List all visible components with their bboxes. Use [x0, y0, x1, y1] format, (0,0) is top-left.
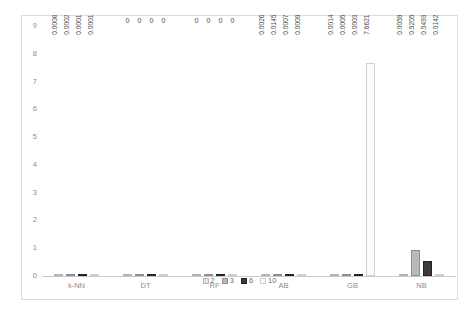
legend-item[interactable]: 3 [222, 276, 234, 285]
bar-group: 0000RF [180, 26, 249, 276]
y-axis-tick-label: 4 [33, 161, 37, 169]
bar-slot: 0 [228, 26, 237, 276]
bar-group-bars: 0000 [111, 26, 180, 276]
bar-slot: 0.0009 [297, 26, 306, 276]
legend-item[interactable]: 10 [260, 276, 276, 285]
legend-item-label: 2 [211, 276, 215, 285]
bar-value-label: 0.0008 [52, 15, 59, 35]
bar-slot: 0 [123, 26, 132, 276]
bar-slot: 0 [159, 26, 168, 276]
bar[interactable] [366, 63, 375, 276]
bar-value-label: 0.5493 [421, 15, 428, 35]
plot-area: 0123456789 0.00080.00020.00010.0001k-NN0… [42, 26, 456, 276]
bar-value-label: 0.0001 [76, 15, 83, 35]
y-axis-tick-label: 7 [33, 78, 37, 86]
bar-slot: 0.0001 [78, 26, 87, 276]
bar-group-bars: 0.00590.92050.54930.0142 [387, 26, 456, 276]
bar-value-label: 0 [207, 17, 211, 24]
legend-item-label: 10 [268, 276, 276, 285]
legend-swatch-icon [241, 278, 247, 284]
bar-group: 0.00260.01450.00070.0009AB [249, 26, 318, 276]
bar-value-label: 0 [162, 17, 166, 24]
legend-item-label: 6 [249, 276, 253, 285]
bar-value-label: 0.0002 [64, 15, 71, 35]
bar-slot: 0 [192, 26, 201, 276]
y-axis-tick-label: 9 [33, 22, 37, 30]
bar-group: 0.00140.00050.00037.6621GB [318, 26, 387, 276]
bar-group-bars: 0.00140.00050.00037.6621 [318, 26, 387, 276]
bar-slot: 0.0005 [342, 26, 351, 276]
bar-slot: 0.0014 [330, 26, 339, 276]
bar-value-label: 0.0059 [397, 15, 404, 35]
bar-slot: 0 [204, 26, 213, 276]
bar-slot: 0.0142 [435, 26, 444, 276]
legend-item-label: 3 [230, 276, 234, 285]
chart-legend: 23610 [22, 276, 457, 285]
bar-slot: 0.0007 [285, 26, 294, 276]
legend-swatch-icon [260, 278, 266, 284]
bar-slot: 0 [135, 26, 144, 276]
bar-value-label: 0.0014 [328, 15, 335, 35]
bar[interactable] [411, 250, 420, 276]
bar-group-bars: 0000 [180, 26, 249, 276]
bar-slot: 0.0145 [273, 26, 282, 276]
bar-value-label: 0 [231, 17, 235, 24]
bar-slot: 0.0026 [261, 26, 270, 276]
bar-value-label: 0.0142 [433, 15, 440, 35]
bar-slot: 0.0002 [66, 26, 75, 276]
bar-group: 0.00080.00020.00010.0001k-NN [42, 26, 111, 276]
bar-group-bars: 0.00260.01450.00070.0009 [249, 26, 318, 276]
chart-frame: 0123456789 0.00080.00020.00010.0001k-NN0… [21, 15, 458, 300]
bar-slot: 0.9205 [411, 26, 420, 276]
bar-slot: 0 [216, 26, 225, 276]
bar-value-label: 0.0001 [88, 15, 95, 35]
bar-slot: 0.0003 [354, 26, 363, 276]
y-axis-tick-label: 2 [33, 217, 37, 225]
y-axis-tick-label: 6 [33, 106, 37, 114]
bar-value-label: 0.0145 [271, 15, 278, 35]
bar-value-label: 0 [138, 17, 142, 24]
bar-value-label: 0.0003 [352, 15, 359, 35]
bar-value-label: 0 [150, 17, 154, 24]
bar-value-label: 0 [195, 17, 199, 24]
bar-value-label: 0.0009 [295, 15, 302, 35]
bar-slot: 0 [147, 26, 156, 276]
bar-value-label: 7.6621 [364, 15, 371, 35]
bar-value-label: 0 [126, 17, 130, 24]
bar-slot: 0.0008 [54, 26, 63, 276]
bar-value-label: 0.0026 [259, 15, 266, 35]
bar-slot: 0.5493 [423, 26, 432, 276]
bar-slot: 0.0059 [399, 26, 408, 276]
y-axis-tick-label: 1 [33, 244, 37, 252]
bar-group: 0000DT [111, 26, 180, 276]
y-axis-tick-label: 5 [33, 133, 37, 141]
bar[interactable] [423, 261, 432, 276]
legend-swatch-icon [203, 278, 209, 284]
legend-item[interactable]: 6 [241, 276, 253, 285]
bar-value-label: 0.9205 [409, 15, 416, 35]
bar-value-label: 0 [219, 17, 223, 24]
bar-slot: 7.6621 [366, 26, 375, 276]
bar-value-label: 0.0005 [340, 15, 347, 35]
bar-group-bars: 0.00080.00020.00010.0001 [42, 26, 111, 276]
y-axis-tick-label: 3 [33, 189, 37, 197]
legend-item[interactable]: 2 [203, 276, 215, 285]
legend-swatch-icon [222, 278, 228, 284]
y-axis-tick-label: 8 [33, 50, 37, 58]
bar-slot: 0.0001 [90, 26, 99, 276]
bar-value-label: 0.0007 [283, 15, 290, 35]
bar-group: 0.00590.92050.54930.0142NB [387, 26, 456, 276]
